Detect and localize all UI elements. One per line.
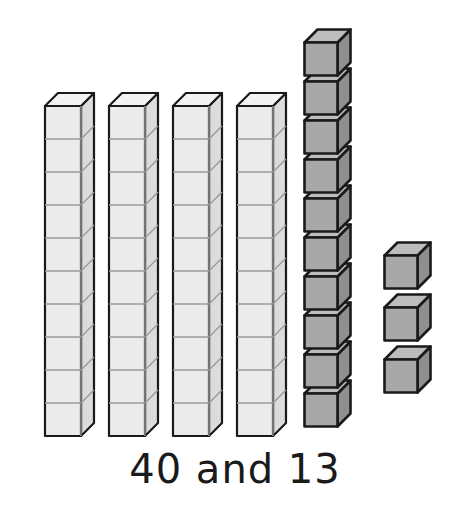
ten-rod-1 <box>44 92 90 437</box>
loose-unit-cube-1 <box>383 241 435 293</box>
ten-rod-4 <box>236 92 282 437</box>
loose-unit-cube-3 <box>383 345 435 397</box>
loose-unit-cube-2 <box>383 293 435 345</box>
ten-rod-3 <box>172 92 218 437</box>
illustration-canvas: 40 and 13 <box>0 0 470 516</box>
caption-text: 40 and 13 <box>0 443 470 495</box>
unit-cube <box>303 28 355 80</box>
ten-rod-2 <box>108 92 154 437</box>
